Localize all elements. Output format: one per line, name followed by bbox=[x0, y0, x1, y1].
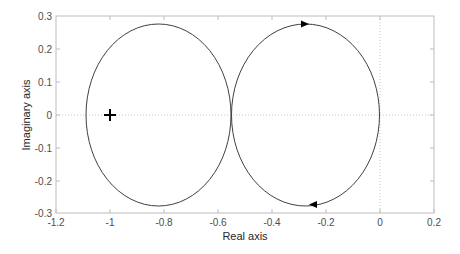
y-axis-label: Imaginary axis bbox=[20, 79, 32, 150]
x-tick-label: -0.4 bbox=[263, 217, 281, 228]
y-tick-label: 0.3 bbox=[38, 11, 52, 22]
y-tick-labels: 0.3 0.2 0.1 0 -0.1 -0.2 -0.3 bbox=[35, 11, 53, 219]
y-tick-label: -0.2 bbox=[35, 176, 53, 187]
y-tick-label: 0.2 bbox=[38, 44, 52, 55]
x-tick-label: -0.6 bbox=[209, 217, 227, 228]
y-tick-label: 0.1 bbox=[38, 77, 52, 88]
nyquist-chart: -1.2 -1 -0.8 -0.6 -0.4 -0.2 0 0.2 0.3 0.… bbox=[0, 0, 460, 254]
x-tick-label: -1 bbox=[106, 217, 115, 228]
x-tick-label: 0.2 bbox=[427, 217, 441, 228]
x-tick-labels: -1.2 -1 -0.8 -0.6 -0.4 -0.2 0 0.2 bbox=[47, 217, 441, 228]
x-tick-label: 0 bbox=[377, 217, 383, 228]
y-tick-label: 0 bbox=[46, 110, 52, 121]
x-axis-label: Real axis bbox=[222, 230, 268, 242]
x-tick-label: -0.2 bbox=[317, 217, 335, 228]
y-tick-label: -0.3 bbox=[35, 208, 53, 219]
y-tick-label: -0.1 bbox=[35, 143, 53, 154]
x-tick-label: -0.8 bbox=[155, 217, 173, 228]
